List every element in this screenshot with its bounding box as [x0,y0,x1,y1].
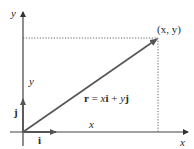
position-vector-diagram: y (x, y) y j i x r = xi + yj x [0,0,194,149]
plus-sign: + [109,92,121,104]
unit-vector-i-label: i [38,135,41,146]
unit-vector-j-label: j [14,107,18,118]
x-axis-label: x [180,137,185,148]
vector-equation: r = xi + yj [84,93,129,104]
equals-sign: = [89,92,101,104]
vector-j-symbol: j [125,92,129,104]
point-label: (x, y) [157,24,181,35]
y-component-label: y [29,76,34,87]
x-component-label: x [89,119,94,130]
y-axis-label: y [11,8,16,19]
